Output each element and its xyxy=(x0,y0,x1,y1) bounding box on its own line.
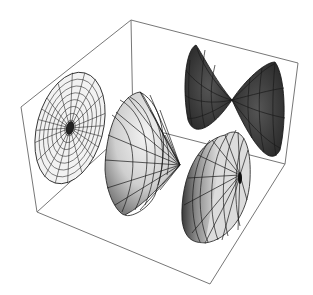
surface-plot xyxy=(0,0,313,295)
left-cone-surface xyxy=(105,92,180,216)
flat-disk-surface xyxy=(23,64,116,191)
front-cone-surface xyxy=(182,130,250,243)
